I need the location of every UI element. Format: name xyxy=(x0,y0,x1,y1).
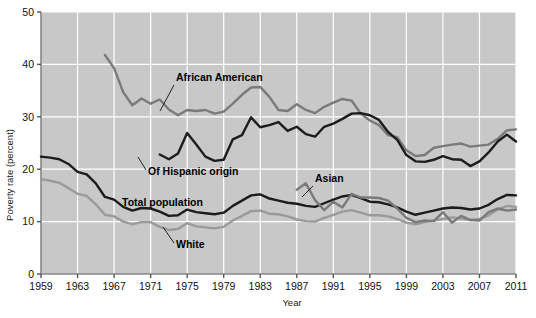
y-tick-label: 50 xyxy=(22,6,34,18)
x-tick-label: 2007 xyxy=(468,280,492,292)
chart-canvas: 01020304050 1959196319671971197519791983… xyxy=(0,0,536,318)
series-label-asian: Asian xyxy=(315,172,344,184)
x-axis-label: Year xyxy=(282,297,301,308)
poverty-rate-chart: 01020304050 1959196319671971197519791983… xyxy=(0,0,536,318)
series-label-african-american: African American xyxy=(176,71,263,83)
x-tick-label: 2003 xyxy=(431,280,455,292)
x-tick-label: 1963 xyxy=(66,280,90,292)
series-label-white: White xyxy=(176,238,205,250)
y-tick-label: 10 xyxy=(22,215,34,227)
x-tick-label: 1995 xyxy=(358,280,382,292)
x-tick-label: 1983 xyxy=(249,280,273,292)
y-axis-label: Poverty rate (percent) xyxy=(4,129,15,221)
x-tick-label: 1991 xyxy=(322,280,346,292)
plot-area-background xyxy=(41,12,516,274)
x-tick-label: 1967 xyxy=(102,280,126,292)
x-tick-label: 2011 xyxy=(505,280,528,292)
y-tick-label: 30 xyxy=(22,111,34,123)
x-tick-label: 1975 xyxy=(175,280,199,292)
series-label-total-population: Total population xyxy=(122,196,203,208)
y-tick-label: 0 xyxy=(28,268,34,280)
x-tick-label: 1999 xyxy=(395,280,419,292)
x-tick-label: 1979 xyxy=(212,280,236,292)
x-tick-label: 1987 xyxy=(285,280,309,292)
y-tick-label: 40 xyxy=(22,58,34,70)
x-tick-label: 1959 xyxy=(29,280,53,292)
series-label-of-hispanic-origin: Of Hispanic origin xyxy=(148,165,238,177)
x-tick-label: 1971 xyxy=(139,280,163,292)
y-tick-label: 20 xyxy=(22,163,34,175)
